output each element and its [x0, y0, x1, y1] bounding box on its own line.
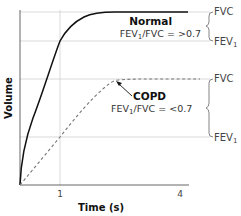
normal-fev1-label: FEV1	[214, 36, 237, 49]
copd-fev1-label: FEV1	[214, 132, 237, 145]
x-tick-4: 4	[177, 189, 183, 199]
x-tick-1: 1	[57, 189, 63, 199]
normal-ratio: FEV1/FVC = >0.7	[120, 28, 201, 41]
copd-arrow	[116, 81, 132, 96]
copd-ratio: FEV1/FVC = <0.7	[111, 103, 192, 116]
copd-fvc-label: FVC	[214, 73, 234, 84]
normal-fvc-label: FVC	[214, 6, 234, 17]
right-annotations: FVC FEV1 FVC FEV1	[214, 6, 237, 145]
copd-curve	[20, 79, 200, 185]
normal-brace-icon	[206, 12, 213, 41]
x-axis-title: Time (s)	[78, 202, 124, 213]
y-axis-title: Volume	[3, 77, 14, 119]
spirometry-chart: FVC FEV1 FVC FEV1 Normal FEV1/FVC = >0.7…	[0, 0, 241, 216]
copd-brace-icon	[206, 79, 213, 137]
copd-title: COPD	[133, 90, 166, 102]
normal-title: Normal	[129, 15, 172, 27]
